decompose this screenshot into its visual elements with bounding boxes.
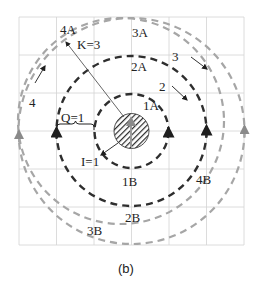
label-2a: 2A [131, 59, 148, 74]
figure-caption: (b) [118, 261, 134, 276]
label-4: 4 [29, 95, 36, 110]
label-1a: 1A [143, 98, 160, 113]
label-2b: 2B [125, 210, 141, 225]
label-2: 2 [159, 79, 166, 94]
label-i: I=1 [81, 154, 99, 169]
label-q: Q=1 [61, 110, 84, 125]
spiral-trajectory-diagram: 4A K=3 3A 3 2A 2 1A 4 Q=1 I=1 1B 4B 2B 3… [0, 0, 253, 289]
label-3a: 3A [132, 25, 149, 40]
arrow-3-icon [191, 57, 207, 69]
label-1b: 1B [122, 174, 138, 189]
label-3: 3 [172, 49, 179, 64]
label-k: K=3 [77, 37, 100, 52]
i-arrow-icon [101, 143, 118, 155]
label-4a: 4A [60, 22, 77, 37]
label-4b: 4B [196, 172, 212, 187]
k-radius-arrow-icon [66, 42, 124, 117]
label-3b: 3B [87, 223, 103, 238]
